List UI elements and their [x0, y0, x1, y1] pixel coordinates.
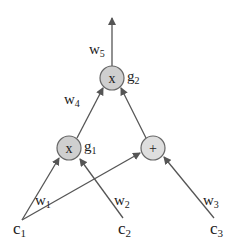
- label-g1: g1: [84, 138, 97, 156]
- edge-c2-g1: [80, 159, 123, 218]
- node-plus-op: +: [149, 141, 157, 156]
- node-g1-op: x: [66, 141, 73, 156]
- label-c3: c3: [210, 219, 224, 239]
- label-w5: w5: [89, 41, 105, 59]
- computation-graph: x x + g2 g1 w5 w4 w1 w2 w3 c1 c2 c3: [0, 0, 236, 251]
- edge-g1-g2: [77, 88, 103, 138]
- label-c2: c2: [118, 219, 131, 239]
- node-plus: +: [141, 136, 165, 160]
- edge-c1-plus: [22, 153, 140, 220]
- label-g2: g2: [127, 68, 140, 86]
- label-w4: w4: [64, 91, 80, 109]
- label-c1: c1: [13, 219, 26, 239]
- label-w1: w1: [35, 192, 51, 210]
- label-w3: w3: [203, 192, 219, 210]
- node-g1: x: [57, 136, 81, 160]
- label-w2: w2: [114, 192, 130, 210]
- edge-c3-plus: [164, 157, 214, 218]
- node-g2: x: [100, 66, 124, 90]
- node-g2-op: x: [109, 71, 116, 86]
- edge-plus-g2: [121, 88, 146, 138]
- edges: [22, 18, 214, 220]
- edge-c1-g1: [22, 158, 59, 220]
